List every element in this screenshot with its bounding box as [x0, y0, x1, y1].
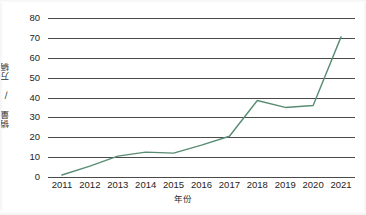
line-chart: 销量 / 万辆 80706050403020100 20112012201320…	[0, 0, 366, 215]
x-axis-title: 年份	[0, 192, 366, 204]
x-axis-tick-label: 2013	[104, 179, 132, 190]
x-axis-tick-label: 2011	[48, 179, 76, 190]
x-axis-tick-label: 2015	[160, 179, 188, 190]
x-axis-tick-label: 2019	[271, 179, 299, 190]
x-axis-tick-label: 2018	[243, 179, 271, 190]
series-line-sales	[62, 37, 341, 175]
x-axis-tick-label: 2012	[76, 179, 104, 190]
x-axis-tick-label: 2016	[188, 179, 216, 190]
x-axis-tick-label: 2021	[327, 179, 355, 190]
x-axis-tick-label: 2017	[215, 179, 243, 190]
x-axis-tick-label: 2020	[299, 179, 327, 190]
x-axis-tick-label: 2014	[132, 179, 160, 190]
